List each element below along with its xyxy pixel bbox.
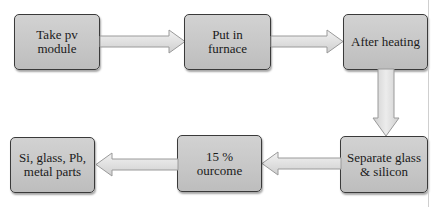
node-label: Put in furnace [208, 28, 247, 56]
arrow-right-icon [270, 28, 345, 55]
flowchart-canvas: Take pv module Put in furnace After heat… [0, 0, 433, 207]
right-edge-divider [428, 0, 429, 207]
node-label: Separate glass & silicon [347, 151, 421, 179]
node-si-glass-pb-metal-parts: Si, glass, Pb, metal parts [10, 137, 95, 193]
node-label: Si, glass, Pb, metal parts [19, 151, 86, 179]
node-after-heating: After heating [343, 14, 428, 70]
node-15-percent-outcome: 15 % ourcome [177, 135, 262, 192]
arrow-right-icon [99, 28, 187, 55]
arrow-left-icon [94, 151, 179, 178]
node-label: After heating [351, 35, 420, 49]
node-take-pv-module: Take pv module [14, 14, 100, 70]
node-label: 15 % ourcome [197, 150, 242, 178]
node-put-in-furnace: Put in furnace [184, 14, 271, 70]
node-separate-glass-silicon: Separate glass & silicon [340, 136, 428, 193]
node-label: Take pv module [36, 28, 77, 56]
arrow-left-icon [260, 150, 342, 177]
arrow-down-icon [372, 68, 400, 138]
